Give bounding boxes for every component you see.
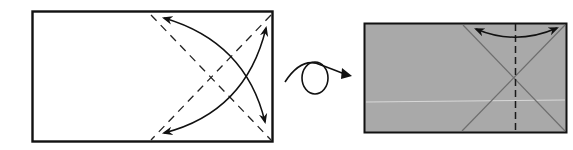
- turn-over-icon: [285, 62, 352, 94]
- origami-diagram: [0, 0, 573, 150]
- turn-over-loop: [302, 62, 328, 94]
- paper-rectangle-front: [33, 12, 273, 142]
- diagram-canvas: [0, 0, 573, 150]
- step-1-paper: [33, 12, 273, 142]
- turn-over-arc: [285, 63, 347, 82]
- step-2-paper: [365, 24, 567, 133]
- paper-rectangle-back: [365, 24, 567, 133]
- turn-over-arrowhead-icon: [341, 68, 352, 79]
